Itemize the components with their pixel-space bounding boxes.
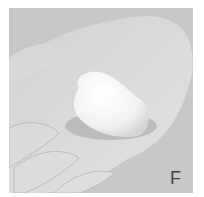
photo-panel: F <box>9 8 193 193</box>
panel-label: F <box>170 168 181 189</box>
hand-illustration <box>9 8 193 193</box>
